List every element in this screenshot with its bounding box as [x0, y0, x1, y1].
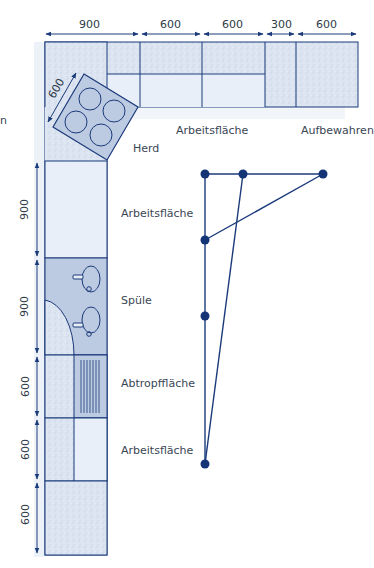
dim-left-5: 600 — [19, 504, 32, 525]
label-worktop-left: Arbeitsfläche — [121, 207, 193, 220]
dim-top-5: 600 — [316, 18, 337, 31]
dim-top-4: 300 — [271, 18, 292, 31]
shadow-strip — [34, 42, 45, 557]
label-sink: Spüle — [121, 294, 152, 307]
node-dot — [201, 460, 210, 469]
dim-left-4: 600 — [19, 439, 32, 460]
node-dot — [201, 236, 210, 245]
label-storage: Aufbewahren — [301, 124, 374, 137]
node-dot — [201, 170, 210, 179]
node-dot — [319, 170, 328, 179]
workflow-triangle — [205, 174, 323, 464]
dim-top-1: 900 — [79, 18, 100, 31]
dim-left-2: 900 — [18, 296, 31, 317]
dim-left-1: 900 — [18, 199, 31, 220]
node-dot — [201, 312, 210, 321]
node-dot — [239, 170, 248, 179]
label-cut-edge: n — [0, 114, 7, 127]
dim-top-2: 600 — [160, 18, 181, 31]
label-worktop-bottom: Arbeitsfläche — [121, 444, 193, 457]
dim-top-3: 600 — [222, 18, 243, 31]
label-stove: Herd — [133, 142, 159, 155]
drainboard-grooves — [81, 360, 99, 413]
label-worktop-top: Arbeitsfläche — [176, 124, 248, 137]
label-drainboard: Abtropffläche — [121, 377, 195, 390]
dim-left-3: 600 — [19, 376, 32, 397]
workflow-nodes — [201, 170, 328, 469]
